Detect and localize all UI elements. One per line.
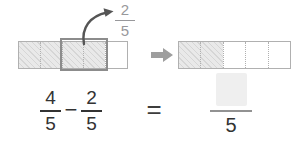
bar-segment-empty: [223, 42, 245, 68]
fraction-minuend: 4 5: [40, 88, 61, 134]
fraction-subtrahend: 2 5: [81, 88, 102, 134]
callout-fraction-two-fifths: 2 5: [115, 2, 135, 39]
bar-segment-shaded: [179, 42, 200, 68]
curved-callout-arrow-icon: [74, 3, 120, 47]
minus-operator: −: [62, 99, 80, 121]
result-fraction: 5: [206, 73, 256, 136]
subtrahend-numerator: 2: [81, 88, 102, 112]
callout-numerator: 2: [115, 2, 135, 21]
result-denominator: 5: [206, 114, 256, 136]
equals-sign: =: [143, 96, 165, 122]
fraction-subtraction-exercise: 2 5 4 5 − 2 5 = 5: [0, 0, 302, 149]
bar-segment-shaded: [19, 42, 40, 68]
callout-denominator: 5: [115, 21, 135, 39]
minuend-denominator: 5: [40, 112, 61, 134]
minuend-numerator: 4: [40, 88, 61, 112]
bar-segment-shaded: [40, 42, 62, 68]
bar-segment-shaded: [200, 42, 222, 68]
bar-segment-empty: [268, 42, 290, 68]
subtrahend-denominator: 5: [81, 112, 102, 134]
bar-segment-empty: [245, 42, 267, 68]
result-fraction-bar: [210, 110, 252, 112]
right-block-arrow-icon: [151, 48, 173, 62]
right-fraction-bar: [178, 41, 291, 69]
answer-input-box[interactable]: [216, 73, 247, 106]
